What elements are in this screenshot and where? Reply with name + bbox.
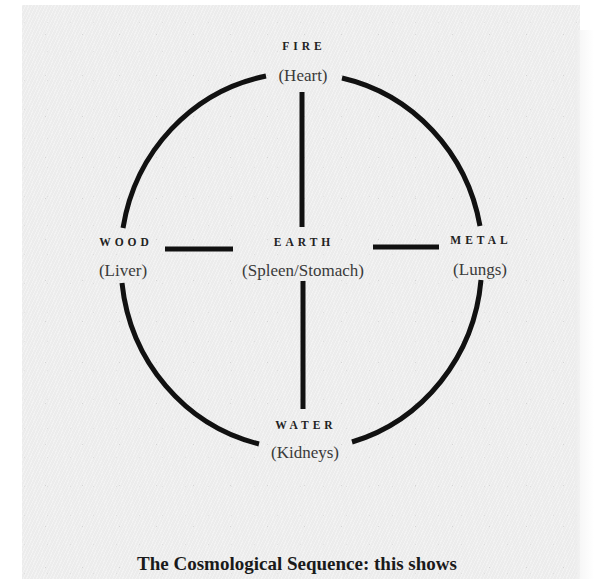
arc-water-to-wood bbox=[122, 283, 259, 444]
node-wood-element: WOOD bbox=[99, 236, 153, 248]
node-metal-organ: (Lungs) bbox=[453, 260, 507, 280]
node-earth-element: EARTH bbox=[274, 236, 335, 248]
node-fire-element: FIRE bbox=[282, 40, 325, 52]
arc-metal-to-water bbox=[352, 280, 481, 442]
node-earth-organ: (Spleen/Stomach) bbox=[242, 261, 364, 281]
node-fire-organ: (Heart) bbox=[278, 66, 327, 86]
cosmological-sequence-diagram bbox=[0, 0, 594, 579]
node-metal-element: METAL bbox=[450, 234, 511, 246]
node-water-organ: (Kidneys) bbox=[271, 443, 339, 463]
arc-wood-to-fire bbox=[123, 76, 266, 228]
node-water-element: WATER bbox=[275, 419, 336, 431]
figure-caption: The Cosmological Sequence: this shows bbox=[137, 553, 457, 575]
arc-fire-to-metal bbox=[342, 78, 480, 226]
node-wood-organ: (Liver) bbox=[99, 261, 147, 281]
